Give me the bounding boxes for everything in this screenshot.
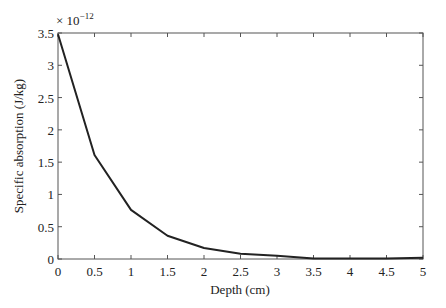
y-tick-label: 1.5: [38, 155, 54, 170]
x-tick-label: 0.5: [86, 264, 102, 279]
x-tick-label: 3.5: [305, 264, 321, 279]
x-tick-label: 1: [128, 264, 135, 279]
x-tick-label: 4.5: [378, 264, 394, 279]
y-axis-label: Specific absorption (J/kg): [11, 79, 26, 213]
x-tick-label: 2.5: [232, 264, 248, 279]
x-tick-label: 5: [420, 264, 427, 279]
x-tick-label: 4: [347, 264, 354, 279]
y-tick-label: 3.5: [38, 26, 54, 41]
plot-frame: [58, 33, 423, 259]
y-tick-label: 1: [48, 187, 55, 202]
x-tick-label: 0: [55, 264, 62, 279]
y-tick-label: 0: [48, 252, 55, 267]
x-axis-label: Depth (cm): [210, 282, 270, 297]
x-tick-label: 1.5: [159, 264, 175, 279]
y-axis-multiplier: × 10−12: [56, 11, 94, 28]
y-axis: 00.511.522.533.5: [38, 26, 423, 267]
series-line: [58, 34, 423, 258]
y-tick-label: 2: [48, 123, 55, 138]
x-axis: 00.511.522.533.544.55: [55, 33, 427, 279]
x-tick-label: 3: [274, 264, 281, 279]
y-tick-label: 3: [48, 58, 55, 73]
y-tick-label: 0.5: [38, 220, 54, 235]
data-series: [58, 34, 423, 258]
line-chart: 00.511.522.533.544.55 00.511.522.533.5 D…: [0, 0, 446, 308]
y-tick-label: 2.5: [38, 91, 54, 106]
x-tick-label: 2: [201, 264, 208, 279]
